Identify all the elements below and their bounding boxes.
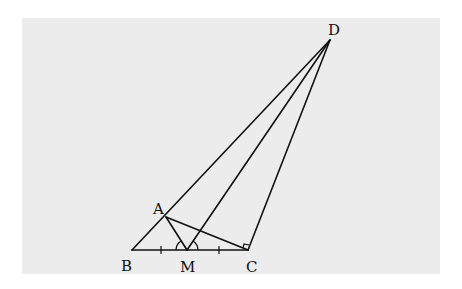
label-c: C <box>246 258 257 276</box>
segment-cd <box>248 40 330 250</box>
label-m: M <box>180 258 195 276</box>
angle-arc-right <box>193 241 198 250</box>
angle-arc-left <box>176 241 181 250</box>
label-b: B <box>121 257 132 275</box>
label-a: A <box>152 200 164 218</box>
right-angle-mark <box>243 244 249 248</box>
segment-bd <box>132 40 330 250</box>
segment-md <box>187 40 330 250</box>
geometry-diagram: A B M C D <box>0 0 462 289</box>
label-d: D <box>328 21 340 39</box>
